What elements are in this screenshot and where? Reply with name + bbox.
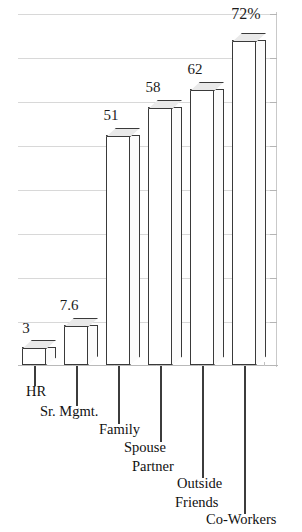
x-axis-tick <box>264 362 265 366</box>
bar-spouse-partner <box>148 100 172 365</box>
category-label-line: HR <box>26 384 46 399</box>
bar-coworkers <box>232 33 256 365</box>
category-label-line: Sr. Mgmt. <box>40 404 98 419</box>
bar-value-family: 51 <box>96 107 126 124</box>
y-axis-tick <box>270 234 277 235</box>
y-axis-tick <box>270 146 277 147</box>
category-label-line: Family <box>99 422 140 437</box>
category-label-line: Friends <box>175 495 222 510</box>
bar-value-outside-friends: 62 <box>180 61 210 78</box>
x-axis-baseline <box>18 365 278 366</box>
y-axis-tick <box>270 278 277 279</box>
bar-hr <box>22 340 46 365</box>
category-label-spouse-partner: Spouse Partner <box>124 440 174 474</box>
y-axis-tick <box>270 190 277 191</box>
bar-side-face <box>256 40 266 365</box>
category-label-sr-mgmt: Sr. Mgmt. <box>40 404 98 419</box>
bar-front-face <box>22 347 46 365</box>
bar-front-face <box>106 135 130 365</box>
leader-line-family <box>118 366 120 424</box>
bar-value-coworkers: 72% <box>222 5 270 23</box>
y-axis-tick <box>270 58 277 59</box>
category-label-outside-friends: Outside Friends <box>177 476 222 510</box>
bar-side-face <box>88 325 98 365</box>
category-label-hr: HR <box>26 384 46 399</box>
bar-outside-friends <box>190 82 214 365</box>
leader-line-spouse-partner <box>160 366 162 442</box>
bar-front-face <box>148 107 172 365</box>
category-label-coworkers: Co-Workers <box>206 512 277 527</box>
leader-line-sr-mgmt <box>76 366 78 406</box>
y-axis-tick <box>270 322 277 323</box>
category-label-line: Spouse <box>124 440 174 455</box>
y-axis-tick <box>270 102 277 103</box>
bar-side-face <box>214 89 224 365</box>
bar-value-sr-mgmt: 7.6 <box>52 297 86 314</box>
bar-side-face <box>46 347 56 365</box>
leader-line-outside-friends <box>202 366 204 478</box>
category-label-line: Co-Workers <box>206 512 277 527</box>
bar-side-face <box>130 135 140 365</box>
bar-front-face <box>64 325 88 365</box>
category-label-line: Outside <box>177 476 222 491</box>
bar-front-face <box>190 89 214 365</box>
y-axis-tick <box>270 14 277 15</box>
bar-side-face <box>172 107 182 365</box>
bar-family <box>106 128 130 365</box>
category-label-line: Partner <box>132 459 174 474</box>
bar-chart: 3 HR 7.6 Sr. Mgmt. 51 Family 58 Spouse P… <box>0 0 302 532</box>
bar-value-hr: 3 <box>14 320 38 337</box>
category-label-family: Family <box>99 422 140 437</box>
cropped-title-artifact <box>20 0 220 7</box>
leader-line-coworkers <box>244 366 246 514</box>
bar-sr-mgmt <box>64 318 88 365</box>
y-axis-tick <box>270 365 277 366</box>
bar-value-spouse-partner: 58 <box>138 79 168 96</box>
bar-front-face <box>232 40 256 365</box>
